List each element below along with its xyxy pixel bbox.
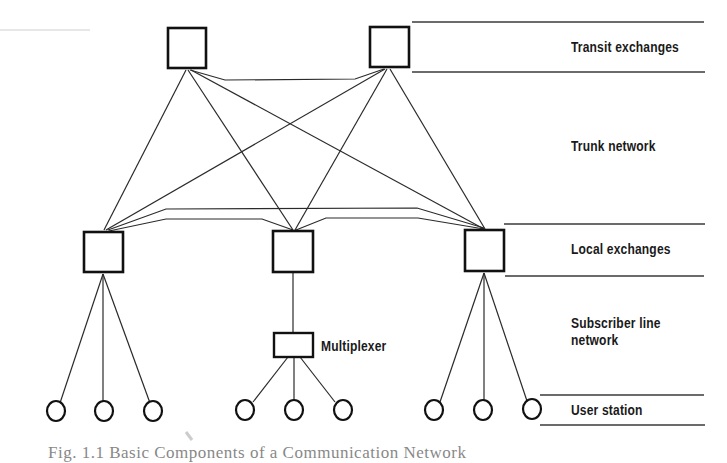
label-trunk-network: Trunk network [571, 138, 656, 155]
link-L1-L2 [109, 219, 293, 231]
line-L1-U3 [103, 274, 150, 403]
user-stations [47, 399, 541, 421]
link-T2-L3 [390, 69, 485, 229]
line-L1-U1 [60, 274, 103, 403]
transit-exchange-T1 [168, 28, 206, 68]
line-L3-U7 [440, 273, 484, 402]
label-multiplexer: Multiplexer [321, 338, 386, 355]
user-station-U3 [144, 401, 162, 421]
user-station-U6 [334, 400, 352, 420]
user-station-U8 [474, 400, 492, 420]
label-subscriber-line: Subscriber line [571, 315, 661, 332]
user-station-U2 [95, 401, 113, 421]
multiplexer-box [274, 333, 313, 357]
link-T2-L2 [295, 69, 387, 230]
transit-exchange-T2 [370, 27, 409, 67]
label-subscriber-network: network [571, 332, 618, 349]
link-T1-L2 [188, 70, 293, 230]
line-L3-U9 [484, 273, 527, 401]
user-station-U5 [285, 400, 303, 420]
label-user-station: User station [571, 402, 643, 419]
local-exchange-L2 [273, 231, 313, 272]
local-exchanges [84, 230, 504, 272]
link-T1-T2 [190, 69, 384, 80]
label-transit-exchanges: Transit exchanges [571, 39, 679, 56]
figure-caption: Fig. 1.1 Basic Components of a Communica… [48, 443, 466, 463]
trunk-links [104, 69, 485, 231]
link-T2-L1 [106, 69, 385, 230]
user-station-U9 [523, 399, 541, 419]
user-station-U1 [47, 401, 65, 421]
label-local-exchanges: Local exchanges [571, 241, 671, 258]
link-T1-L3 [191, 70, 484, 229]
user-station-U4 [236, 400, 254, 420]
local-exchange-L3 [465, 230, 504, 271]
user-station-U7 [425, 400, 443, 420]
layer-dividers [412, 22, 705, 425]
link-T1-L1 [104, 70, 186, 230]
line-M1-U4 [253, 357, 288, 402]
scan-mark [186, 432, 192, 440]
local-exchange-L1 [84, 232, 123, 272]
line-M1-U6 [300, 357, 335, 402]
transit-exchanges [168, 27, 409, 68]
